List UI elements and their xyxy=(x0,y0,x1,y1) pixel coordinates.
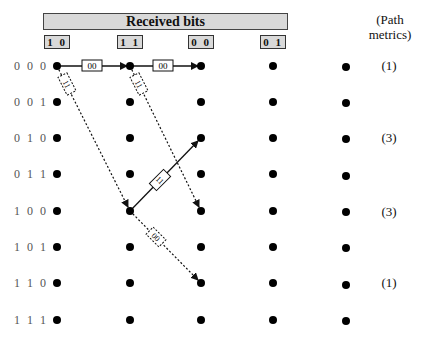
column-t0 xyxy=(53,62,61,324)
branch-t1-000-to-t2-100: 11 xyxy=(130,66,199,207)
column-t3 xyxy=(269,62,277,324)
column-t4 xyxy=(342,63,350,325)
svg-text:00: 00 xyxy=(88,61,98,71)
column-t1 xyxy=(126,62,134,324)
branch-t0-000-to-t1-100: 11 xyxy=(57,66,128,207)
branch-t1-000-to-t2-000: 00 xyxy=(130,60,198,71)
trellis-diagram: 00 00 11 11 11 00 xyxy=(0,0,421,341)
column-t2 xyxy=(197,62,205,324)
branch-t0-000-to-t1-000: 00 xyxy=(57,60,127,71)
trellis-nodes xyxy=(53,62,350,325)
branch-t1-100-to-t2-010: 11 xyxy=(130,141,198,211)
svg-text:00: 00 xyxy=(159,61,169,71)
branch-t1-100-to-t2-110: 00 xyxy=(130,211,198,280)
